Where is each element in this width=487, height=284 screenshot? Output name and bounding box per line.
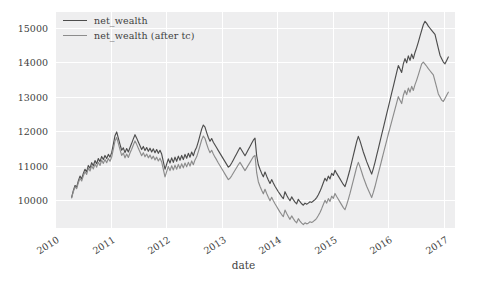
y-tick-label: 11000: [2, 160, 48, 171]
legend-label: net_wealth (after tc): [94, 30, 195, 41]
legend-label: net_wealth: [94, 15, 148, 26]
chart-legend: net_wealthnet_wealth (after tc): [63, 14, 195, 44]
series-layer: [55, 12, 455, 228]
x-tick-label: 2016: [368, 234, 394, 256]
y-tick-label: 12000: [2, 126, 48, 137]
y-tick-label: 13000: [2, 91, 48, 102]
x-tick-label: 2012: [146, 234, 172, 256]
x-axis-label: date: [0, 259, 487, 271]
y-tick-label: 15000: [2, 22, 48, 33]
x-tick-label: 2011: [90, 234, 116, 256]
x-tick-label: 2013: [201, 234, 227, 256]
x-tick-label: 2017: [424, 234, 450, 256]
x-tick-label: 2015: [312, 234, 338, 256]
series-line-1: [72, 21, 449, 205]
legend-item-2: net_wealth (after tc): [63, 29, 195, 42]
legend-item-1: net_wealth: [63, 14, 195, 27]
y-tick-label: 14000: [2, 57, 48, 68]
series-line-2: [72, 62, 449, 224]
chart-figure: 100001100012000130001400015000 201020112…: [0, 0, 487, 284]
x-tick-label: 2010: [35, 234, 61, 256]
y-tick-label: 10000: [2, 195, 48, 206]
x-tick-label: 2014: [257, 234, 283, 256]
legend-line-swatch: [63, 20, 87, 21]
legend-line-swatch: [63, 35, 87, 36]
plot-area: [55, 12, 455, 228]
